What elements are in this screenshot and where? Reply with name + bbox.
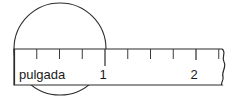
unit-label: pulgada [19, 67, 66, 82]
inch-label-2: 2 [190, 67, 197, 82]
ruler-figure: pulgada 1 2 [0, 0, 238, 100]
ruler-svg: pulgada 1 2 [0, 0, 238, 100]
inch-label-1: 1 [99, 67, 106, 82]
